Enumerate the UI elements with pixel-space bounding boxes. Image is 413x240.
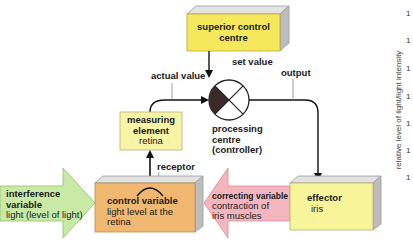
control-variable-subtitle2: retina — [107, 217, 178, 228]
interference-variable-subtitle: light (level of light) — [6, 210, 83, 221]
effector-label: effector iris — [307, 193, 342, 214]
output-label: output — [281, 67, 311, 78]
effector-title: effector — [307, 193, 342, 204]
superior-control-centre-line1: superior control — [187, 21, 280, 32]
measuring-element-line1: measuring — [120, 115, 182, 126]
superior-control-centre-line2: centre — [187, 32, 280, 43]
receptor-label: receptor — [157, 161, 195, 172]
processing-centre-circle — [209, 80, 249, 120]
side-axis-tick: 1 — [406, 173, 410, 182]
processing-centre-line3: (controller) — [212, 145, 263, 156]
superior-control-centre-title: superior control centre — [187, 21, 280, 43]
correcting-variable-subtitle2: iris muscles — [212, 211, 288, 221]
interference-variable-title: interference — [6, 189, 83, 200]
processing-centre-line1: processing — [212, 124, 263, 135]
measuring-element-label: measuring element retina — [120, 115, 182, 147]
interference-variable-label: interference variable light (level of li… — [6, 189, 83, 221]
measuring-element-subtitle: retina — [120, 136, 182, 147]
side-axis-tick: 1 — [406, 64, 410, 73]
control-variable-title: control variable — [107, 196, 178, 207]
side-axis-tick: 1 — [406, 119, 410, 128]
processing-centre-label: processing centre (controller) — [212, 124, 263, 156]
correcting-variable-label: correcting variable contraction of iris … — [212, 191, 288, 221]
side-axis-tick: 1 — [406, 9, 410, 18]
side-axis-label: relative level of light/light intensity — [394, 51, 403, 170]
actual-value-label: actual value — [151, 70, 205, 81]
side-axis-tick: 1 — [406, 36, 410, 45]
set-value-label: set value — [232, 56, 273, 67]
side-axis-tick: 1 — [406, 92, 410, 101]
actual-value-arrow — [150, 100, 207, 112]
side-axis-tick: 1 — [406, 146, 410, 155]
control-variable-label: control variable light level at the reti… — [107, 196, 178, 228]
effector-subtitle: iris — [307, 204, 342, 215]
